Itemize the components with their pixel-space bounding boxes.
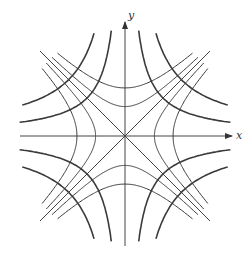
x-axis-label: x: [236, 129, 243, 142]
y-axis-label: y: [127, 9, 135, 22]
hyperbola-diagram: x y: [0, 0, 251, 259]
plot-area: x y: [0, 0, 251, 259]
